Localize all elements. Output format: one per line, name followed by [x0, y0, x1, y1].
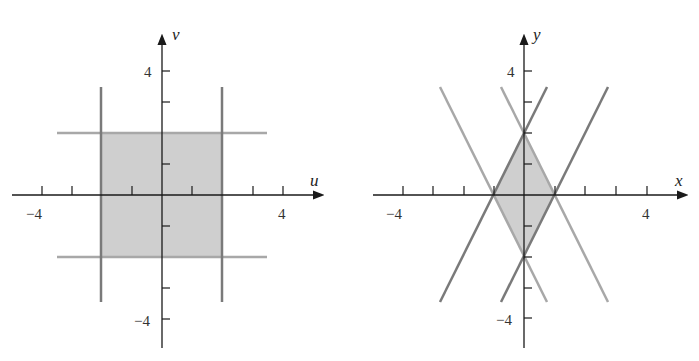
v-axis-label: v: [172, 25, 180, 44]
figure-canvas: −4 4 4 −4 u v: [0, 0, 699, 361]
v-tick-label-4: 4: [144, 64, 152, 80]
u-tick-label-neg4: −4: [26, 206, 42, 222]
u-axis-label: u: [310, 171, 319, 190]
y-tick-label-4: 4: [507, 64, 515, 80]
uv-plane-panel: −4 4 4 −4 u v: [12, 25, 322, 348]
u-tick-label-4: 4: [278, 206, 286, 222]
x-tick-label-4: 4: [642, 206, 650, 222]
x-tick-label-neg4: −4: [386, 206, 402, 222]
x-axis-label: x: [674, 171, 683, 190]
xy-plane-panel: −4 4 4 −4 x y: [373, 25, 686, 348]
v-tick-label-neg4: −4: [134, 313, 150, 329]
y-tick-label-neg4: −4: [496, 312, 512, 328]
y-axis-label: y: [531, 25, 541, 44]
